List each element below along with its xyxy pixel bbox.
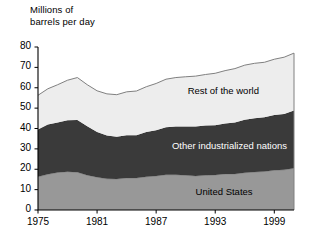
y-tick-label: 30 (9, 142, 31, 153)
x-tick-label: 1999 (254, 216, 294, 227)
y-tick-label: 20 (9, 162, 31, 173)
y-tick-label: 80 (9, 40, 31, 51)
x-tick-label: 1987 (136, 216, 176, 227)
stacked-area-chart: Millions of barrels per day 010203040506… (0, 0, 312, 237)
plot-area (0, 0, 312, 237)
y-tick-label: 0 (9, 203, 31, 214)
x-tick-label: 1981 (77, 216, 117, 227)
series-label-united-states: United States (196, 186, 253, 197)
y-tick-label: 40 (9, 122, 31, 133)
y-tick-label: 10 (9, 183, 31, 194)
y-tick-label: 50 (9, 101, 31, 112)
x-tick-label: 1993 (195, 216, 235, 227)
series-label-other-industrialized: Other industrialized nations (172, 140, 287, 151)
y-tick-label: 60 (9, 81, 31, 92)
x-tick-label: 1975 (18, 216, 58, 227)
y-tick-label: 70 (9, 60, 31, 71)
series-label-rest-of-world: Rest of the world (188, 85, 259, 96)
